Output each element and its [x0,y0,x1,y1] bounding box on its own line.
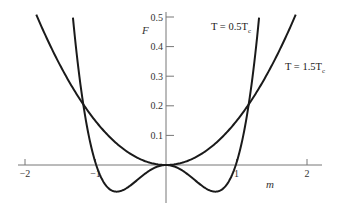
y-tick-label: 0.2 [151,100,164,111]
free-energy-chart: −2−112 0.10.20.30.40.5 F m T = 0.5Tc T =… [0,0,340,203]
y-axis-label: F [141,24,149,36]
y-tick-label: 0.5 [151,12,164,23]
y-tick-label: 0.1 [151,130,164,141]
x-tick-label: −2 [20,168,31,179]
curve-label-high-temp-sub: c [322,67,325,75]
curve-label-high-temp: T = 1.5Tc [285,61,325,75]
curve-label-low-temp-main: T = 0.5T [211,21,249,32]
y-tick-label: 0.3 [151,71,164,82]
y-axis: 0.10.20.30.40.5 [151,12,175,204]
curve-label-low-temp-sub: c [248,27,251,35]
y-tick-label: 0.4 [151,41,164,52]
curve-label-low-temp: T = 0.5Tc [211,21,251,35]
curve-label-high-temp-main: T = 1.5T [285,61,323,72]
x-tick-label: 2 [305,168,310,179]
x-axis-label: m [266,178,274,190]
x-axis: −2−112 [18,159,322,179]
